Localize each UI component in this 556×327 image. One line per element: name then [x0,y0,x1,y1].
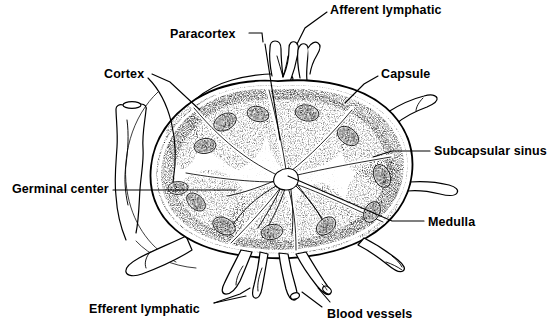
lymph-node-diagram [0,0,556,327]
label-medulla: Medulla [428,216,475,229]
label-subcapsular-sinus: Subcapsular sinus [434,145,547,158]
leader-blood-vessels-1 [302,292,322,307]
label-capsule: Capsule [381,68,430,81]
leader-paracortex-elbow [249,33,263,42]
label-germinal-center: Germinal center [12,183,109,196]
label-afferent-lymphatic: Afferent lymphatic [330,4,442,17]
efferent-vessel-left [126,236,192,276]
label-blood-vessels: Blood vessels [327,308,412,321]
leader-afferent-lymphatic [297,12,327,44]
label-efferent-lymphatic: Efferent lymphatic [89,303,200,316]
figure-canvas: Afferent lymphatic Paracortex Capsule Co… [0,0,556,327]
label-paracortex: Paracortex [170,28,236,41]
label-cortex: Cortex [104,68,144,81]
